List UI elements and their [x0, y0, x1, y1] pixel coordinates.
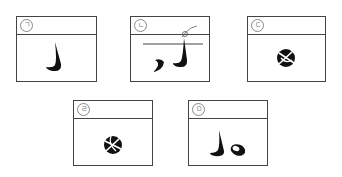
panel-body: [248, 34, 325, 81]
panel-label: ㄹ: [77, 103, 90, 116]
crescent-hook-icon: [17, 34, 98, 83]
panel-a: ㄱ: [16, 16, 97, 82]
panel-e: ㅁ: [188, 100, 268, 166]
panel-d: ㄹ: [73, 100, 153, 166]
hook-and-oval-icon: [189, 118, 269, 167]
crossed-circle-icon: [248, 34, 327, 83]
panel-header: ㅁ: [189, 101, 267, 119]
panel-label: ㄴ: [134, 19, 147, 32]
panel-header: ㄷ: [248, 17, 325, 35]
horizon-crescents-icon: [131, 34, 211, 83]
panel-b: ㄴ: [130, 16, 210, 82]
panel-header: ㄴ: [131, 17, 209, 35]
panel-label: ㅁ: [192, 103, 205, 116]
panel-header: ㄹ: [74, 101, 152, 119]
panel-label: ㄷ: [251, 19, 264, 32]
panel-body: [131, 34, 209, 81]
panel-header: ㄱ: [17, 17, 96, 35]
panel-body: [74, 118, 152, 165]
panel-body: [17, 34, 96, 81]
panel-label: ㄱ: [20, 19, 33, 32]
panel-c: ㄷ: [247, 16, 326, 82]
panel-body: [189, 118, 267, 165]
crossed-circle-icon: [74, 118, 154, 167]
